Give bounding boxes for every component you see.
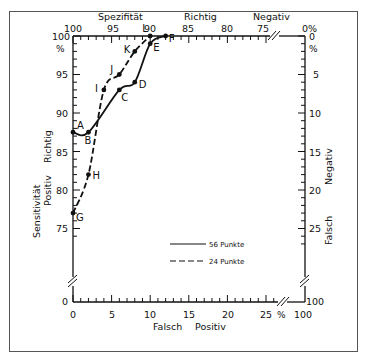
left-axis-label-positiv: Positiv: [42, 175, 53, 206]
point-label-i: I: [95, 83, 98, 94]
point-label-d: D: [139, 79, 147, 90]
data-point-g: [71, 211, 76, 216]
bottom-tick-label: 20: [222, 309, 234, 320]
bottom-tick-label: 15: [183, 309, 195, 320]
right-tick-unit: %: [309, 44, 318, 54]
right-tick-label: 5: [313, 69, 319, 80]
data-point-h: [86, 172, 91, 177]
data-point-f: [163, 34, 168, 39]
point-label-k: K: [124, 44, 131, 55]
right-tick-label: 100: [306, 296, 324, 307]
left-tick-label: 0: [62, 296, 68, 307]
bottom-tick-label: 5: [109, 309, 115, 320]
data-points: ABCDEFGHIJKL: [71, 23, 175, 223]
left-tick-label: 90: [56, 108, 68, 119]
point-label-c: C: [121, 92, 128, 103]
data-point-k: [132, 49, 137, 54]
right-tick-label: 25: [309, 223, 321, 234]
point-label-b: B: [84, 135, 91, 146]
right-tick-label: 10: [309, 108, 321, 119]
data-point-a: [71, 130, 76, 135]
top-tick-label: 80: [221, 23, 233, 34]
data-point-l: [148, 34, 153, 39]
right-axis-label-falsch: Falsch: [323, 216, 334, 245]
bottom-axis-label-falsch: Falsch: [153, 321, 182, 332]
legend-solid-label: 56 Punkte: [209, 241, 244, 249]
left-tick-label: 80: [56, 185, 68, 196]
axes: [73, 36, 305, 302]
left-axis-label-sensitivitat: Sensitivität: [31, 184, 42, 238]
point-label-a: A: [77, 120, 84, 131]
bottom-axis-label-positiv: Positiv: [195, 321, 226, 332]
legend: 56 Punkte 24 Punkte: [170, 241, 244, 266]
data-point-d: [132, 80, 137, 85]
right-axis: 0 % 5 10 15 20 25 100 Negativ Falsch: [306, 31, 334, 307]
data-point-j: [117, 72, 122, 77]
left-tick-label: 95: [56, 69, 68, 80]
bottom-tick-label: 100: [294, 309, 312, 320]
data-point-e: [148, 41, 153, 46]
point-label-f: F: [169, 33, 175, 44]
top-tick-label: 75: [257, 23, 269, 34]
bottom-tick-label: 10: [144, 309, 156, 320]
left-tick-label: 85: [56, 147, 68, 158]
axis-break-marks: [68, 31, 309, 306]
bottom-axis: 0 5 10 15 20 25 % 100 Falsch Positiv: [70, 309, 312, 332]
axis-ticks: [73, 36, 305, 302]
left-tick-label: 75: [56, 223, 68, 234]
left-tick-unit: %: [56, 44, 65, 54]
bottom-tick-label: 25: [260, 309, 272, 320]
top-axis: Spezifität Richtig Negativ 100 95 90 85 …: [64, 11, 317, 34]
data-point-b: [86, 130, 91, 135]
right-axis-label-negativ: Negativ: [323, 148, 334, 185]
bottom-tick-label: 0: [70, 309, 76, 320]
point-label-l: L: [142, 23, 148, 34]
top-tick-label: 85: [182, 23, 194, 34]
top-axis-label-negativ: Negativ: [253, 11, 290, 22]
left-axis: 100 % 95 90 85 80 75 0 Sensitivität Posi…: [31, 31, 70, 307]
left-axis-label-richtig: Richtig: [42, 130, 53, 163]
data-point-i: [101, 88, 106, 93]
point-label-j: J: [109, 64, 113, 75]
legend-dashed-label: 24 Punkte: [209, 258, 244, 266]
right-tick-label: 20: [309, 185, 321, 196]
roc-chart: Spezifität Richtig Negativ 100 95 90 85 …: [0, 0, 367, 360]
curve-56-punkte: [73, 36, 166, 135]
left-tick-label: 100: [52, 31, 70, 42]
right-tick-label: 0: [309, 31, 315, 42]
point-label-g: G: [76, 212, 84, 223]
point-label-e: E: [153, 42, 159, 53]
top-axis-label-richtig: Richtig: [184, 11, 217, 22]
right-tick-label: 15: [309, 147, 321, 158]
top-axis-label-spezifitat: Spezifität: [98, 11, 143, 22]
bottom-tick-unit: %: [277, 310, 286, 320]
top-tick-label: 95: [107, 23, 119, 34]
point-label-h: H: [92, 170, 100, 181]
